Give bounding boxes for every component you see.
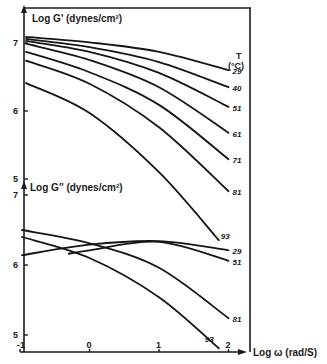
upper-curve-label-93: 93 [221, 232, 230, 241]
lower-curves: 29518193 [22, 230, 242, 348]
x-tick-label: 1 [156, 340, 161, 350]
upper-curve-label-51: 51 [233, 104, 242, 113]
x-axis-title: Log ω (rad/S) [253, 347, 317, 358]
x-tick-label: 0 [87, 340, 92, 350]
y-axis-arrow-upper [21, 5, 27, 13]
upper-y-tick-label: 5 [13, 174, 18, 184]
upper-curve-label-61: 61 [233, 130, 242, 139]
lower-y-tick-label: 5 [13, 330, 18, 340]
viscoelastic-chart: Log G' (dynes/cm²) Log G'' (dynes/cm²) L… [0, 0, 327, 364]
upper-curve-label-29: 29 [232, 67, 242, 76]
y-axis-arrow-lower [21, 181, 27, 189]
lower-y-tick-label: 7 [13, 190, 18, 200]
lower-curve-label-51: 51 [233, 258, 242, 267]
lower-curve-label-93: 93 [205, 335, 214, 344]
lower-curve-label-29: 29 [232, 247, 242, 256]
upper-curves: 29405161718193 [26, 37, 242, 241]
upper-curve-label-40: 40 [232, 84, 242, 93]
upper-y-tick-label: 7 [13, 38, 18, 48]
x-axis-arrow [238, 349, 247, 355]
upper-curve-label-71: 71 [233, 156, 242, 165]
x-tick-label: 2 [226, 340, 231, 350]
lower-y-axis-title: Log G'' (dynes/cm²) [30, 182, 123, 193]
lower-y-tick-label: 6 [13, 260, 18, 270]
upper-y-axis-title: Log G' (dynes/cm²) [32, 13, 122, 24]
x-tick-label: -1 [17, 340, 25, 350]
upper-curve-81 [26, 61, 229, 192]
lower-curve-label-81: 81 [233, 315, 242, 324]
upper-y-tick-label: 6 [13, 106, 18, 116]
x-ticks: -1012 [17, 340, 231, 352]
lower-curve-93 [22, 237, 219, 348]
lower-curve-81 [22, 230, 229, 318]
upper-curve-label-81: 81 [233, 188, 242, 197]
lower-y-ticks: 765 [13, 190, 28, 340]
